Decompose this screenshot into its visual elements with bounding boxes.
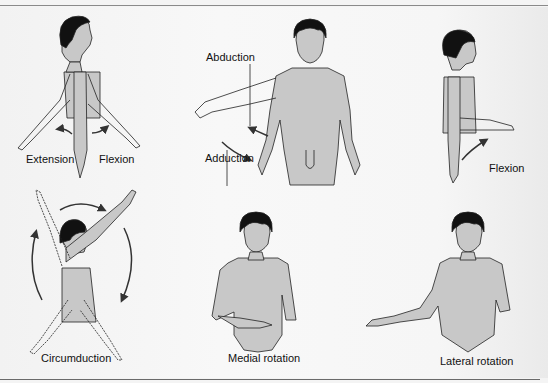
figure-medial-rotation — [212, 212, 296, 352]
label-flexion-side: Flexion — [489, 163, 524, 174]
figure-circumduction — [30, 190, 136, 360]
figure-flexion-side — [443, 30, 514, 183]
label-abduction: Abduction — [206, 52, 255, 63]
illustration — [0, 0, 548, 383]
label-extension: Extension — [26, 154, 74, 165]
figure-lateral-rotation — [366, 212, 510, 352]
label-adduction: Adduction — [205, 153, 254, 164]
label-medial-rotation: Medial rotation — [228, 353, 300, 364]
label-flexion-front: Flexion — [99, 154, 134, 165]
label-lateral-rotation: Lateral rotation — [440, 356, 513, 367]
label-circumduction: Circumduction — [41, 353, 111, 364]
